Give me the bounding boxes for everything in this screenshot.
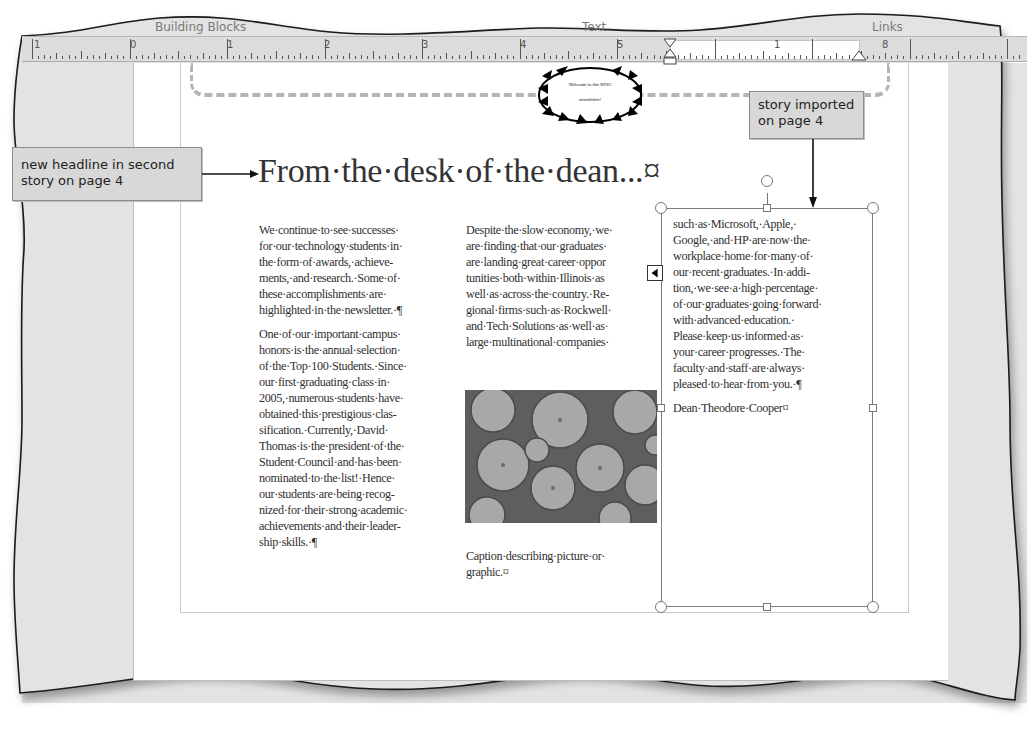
story-headline[interactable]: From·the·desk·of·the·dean...¤: [258, 152, 660, 190]
text-line: ship·skills.·¶: [259, 534, 455, 550]
ruler-tick: [849, 55, 850, 59]
ruler-tick: [721, 56, 722, 59]
ruler-tick: [294, 56, 295, 59]
previous-text-box-arrow-icon[interactable]: [647, 265, 663, 281]
callout-text: story imported: [758, 97, 855, 113]
resize-handle-right[interactable]: [869, 404, 877, 412]
ruler-tick: [489, 56, 490, 59]
ruler-tick: [702, 55, 703, 59]
story-column-1[interactable]: We·continue·to·see·successes· for·our·te…: [259, 222, 455, 558]
ruler-tick: [331, 56, 332, 59]
ruler-tick: [788, 53, 789, 59]
ruler-tick: [806, 56, 807, 59]
ruler-tick: [989, 56, 990, 59]
ruler-tick: [995, 55, 996, 59]
ruler-tick: [93, 55, 94, 59]
ruler-tick: [763, 51, 764, 59]
ruler-tick: [946, 55, 947, 59]
ruler-tick: [824, 55, 825, 59]
ruler-tick: [367, 56, 368, 59]
ruler-tick: [556, 55, 557, 59]
ruler-tick: [105, 53, 106, 59]
text-line: and·Tech·Solutions·as·well·as·: [466, 318, 661, 334]
text-line: our·first·graduating·class·in·: [259, 374, 455, 390]
resize-handle-bottom-left[interactable]: [655, 601, 667, 613]
ruler-tick: [708, 56, 709, 59]
ruler-tick: [836, 53, 837, 59]
photo-caption[interactable]: Caption·describing·picture·or· graphic.¤: [466, 548, 656, 580]
ruler-tick: [379, 56, 380, 59]
ruler-tick: [794, 56, 795, 59]
text-line: for·our·technology·students·in·: [259, 238, 455, 254]
ruler-tick: [385, 55, 386, 59]
ruler-tick: [233, 56, 234, 59]
ruler-tick: [50, 56, 51, 59]
paragraph: We·continue·to·see·successes· for·our·te…: [259, 222, 455, 318]
ruler-tick: [970, 55, 971, 59]
ruler-label: 0: [130, 39, 136, 50]
ruler-tick: [404, 56, 405, 59]
ruler-tick: [897, 55, 898, 59]
ruler-tick: [166, 55, 167, 59]
ruler-tick: [599, 56, 600, 59]
selected-text-box[interactable]: [661, 208, 873, 607]
ruler-tick: [434, 55, 435, 59]
story-column-2[interactable]: Despite·the·slow·economy,·we· are·findin…: [466, 222, 661, 358]
ruler-tick: [910, 39, 911, 59]
ruler-tick: [215, 55, 216, 59]
callout-new-headline: new headline in second story on page 4: [12, 147, 202, 201]
text-line: these·accomplishments·are·: [259, 286, 455, 302]
ruler-tick: [288, 55, 289, 59]
callout-text: new headline in second: [21, 157, 193, 173]
ruler-tick: [428, 56, 429, 59]
text-line: Thomas·is·the·president·of·the·: [259, 438, 455, 454]
callout-arrow-left: [202, 168, 260, 180]
ruler-tick: [684, 56, 685, 59]
text-line: nominated·to·the·list!·Hence·: [259, 470, 455, 486]
ruler-tick: [1007, 39, 1008, 59]
ribbon-group-building-blocks: Building Blocks: [155, 20, 246, 34]
text-line: achievements·and·their·leader-: [259, 518, 455, 534]
ruler-tick: [452, 56, 453, 59]
resize-handle-top[interactable]: [763, 204, 771, 212]
resize-handle-bottom-right[interactable]: [867, 601, 879, 613]
first-line-indent-marker[interactable]: [662, 38, 678, 68]
rotate-handle[interactable]: [761, 175, 773, 187]
ruler-tick: [830, 56, 831, 59]
ruler-tick: [964, 56, 965, 59]
ruler-tick: [306, 56, 307, 59]
ruler-tick: [251, 53, 252, 59]
callout-text: story on page 4: [21, 173, 193, 189]
ruler-tick: [56, 53, 57, 59]
text-line: sification.·Currently,·David·: [259, 422, 455, 438]
ruler-tick: [891, 56, 892, 59]
resize-handle-bottom[interactable]: [763, 603, 771, 611]
ruler-tick: [318, 56, 319, 59]
header-graphic-line1: Welcome to the WMU: [552, 82, 628, 87]
ruler-tick: [69, 55, 70, 59]
text-line: ments,·and·research.·Some·of·: [259, 270, 455, 286]
ruler-tick: [532, 55, 533, 59]
flower-photo[interactable]: [465, 390, 657, 523]
ruler-tick: [178, 51, 179, 59]
ruler-tick: [117, 55, 118, 59]
horizontal-ruler[interactable]: 1 0 1 2 3 4 5 1 8: [22, 36, 1027, 62]
resize-handle-left[interactable]: [657, 404, 665, 412]
ruler-tick: [465, 56, 466, 59]
ruler-tick: [257, 56, 258, 59]
ruler-tick: [916, 56, 917, 59]
ruler-tick: [1019, 55, 1020, 59]
ruler-tick: [739, 53, 740, 59]
ruler-tick: [715, 39, 716, 59]
ruler-tick: [501, 56, 502, 59]
ruler-tick: [635, 56, 636, 59]
resize-handle-top-left[interactable]: [655, 202, 667, 214]
resize-handle-top-right[interactable]: [867, 202, 879, 214]
starburst-shape[interactable]: [536, 66, 644, 124]
ruler-tick: [958, 51, 959, 59]
right-indent-marker[interactable]: [851, 48, 867, 62]
text-line: We·continue·to·see·successes·: [259, 222, 455, 238]
ruler-tick: [349, 53, 350, 59]
ruler-tick: [355, 56, 356, 59]
callout-story-imported: story imported on page 4: [749, 91, 864, 139]
